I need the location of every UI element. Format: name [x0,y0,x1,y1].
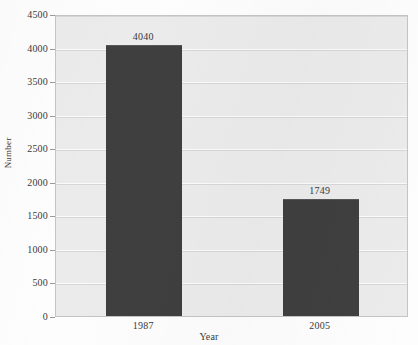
y-tick-label: 1500 [27,210,48,221]
y-tick-label: 500 [32,277,48,288]
bar[interactable] [106,45,182,316]
plot-area [55,15,408,317]
y-axis: Number 050010001500200025003000350040004… [0,0,55,345]
y-tick-label: 4500 [27,9,48,20]
y-tick-label: 3500 [27,76,48,87]
bar-value-label: 4040 [103,31,183,42]
y-tick-label: 3000 [27,110,48,121]
y-tick-mark [50,317,55,318]
y-tick-label: 4000 [27,43,48,54]
x-axis-title: Year [0,331,418,342]
x-tick-label: 2005 [280,320,360,331]
y-tick-label: 2500 [27,143,48,154]
bar-chart-figure: Number 050010001500200025003000350040004… [0,0,418,345]
y-tick-label: 1000 [27,244,48,255]
y-tick-label: 2000 [27,177,48,188]
y-axis-title: Number [3,123,13,183]
y-tick-label: 0 [43,311,48,322]
cropped-title-remnant [120,0,310,2]
bar-series [56,16,407,316]
x-tick-label: 1987 [103,320,183,331]
bar[interactable] [283,199,359,316]
bar-value-label: 1749 [280,185,360,196]
